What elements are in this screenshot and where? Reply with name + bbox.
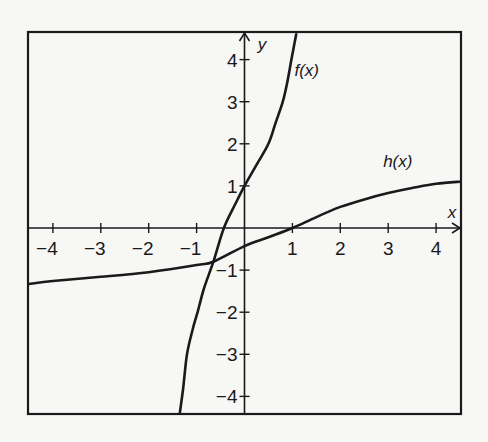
x-tick-label: −2 [132, 238, 154, 259]
x-tick-label: 4 [431, 238, 442, 259]
axes [28, 33, 460, 414]
y-tick-label: 1 [227, 176, 238, 197]
x-axis-label: x [447, 203, 457, 222]
y-tick-label: 2 [227, 134, 238, 155]
x-tick-label: −4 [36, 238, 58, 259]
y-axis-label: y [257, 35, 268, 54]
x-tick-label: −1 [180, 238, 202, 259]
x-tick-label: −3 [84, 238, 106, 259]
y-tick-label: −2 [216, 302, 238, 323]
x-tick-label: 1 [287, 238, 298, 259]
y-tick-label: 3 [227, 92, 238, 113]
y-tick-label: −4 [216, 386, 238, 407]
y-tick-label: −3 [216, 344, 238, 365]
curve-label-hx: h(x) [383, 152, 412, 171]
curve-label-fx: f(x) [294, 61, 319, 80]
labels: −4−3−2−112344321−1−2−3−4xyf(x)h(x) [36, 35, 457, 407]
function-graph: −4−3−2−112344321−1−2−3−4xyf(x)h(x) [0, 0, 488, 442]
y-tick-label: −1 [216, 260, 238, 281]
y-tick-label: 4 [227, 50, 238, 71]
x-tick-label: 2 [335, 238, 346, 259]
x-tick-label: 3 [383, 238, 394, 259]
